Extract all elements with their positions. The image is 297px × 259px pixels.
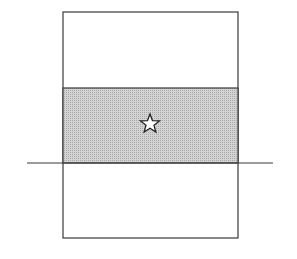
diagram-canvas <box>0 0 297 259</box>
